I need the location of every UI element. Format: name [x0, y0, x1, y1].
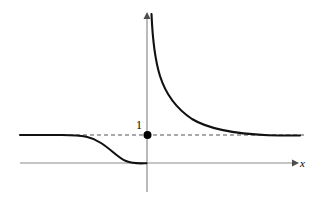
point-marker-0-1	[144, 131, 152, 139]
x-axis-label: x	[300, 158, 305, 169]
curve-left-branch	[20, 135, 146, 163]
function-graph-figure: 1 x	[0, 0, 321, 208]
curve-right-branch	[152, 14, 301, 136]
y-tick-label-1: 1	[136, 119, 142, 131]
plot-canvas	[0, 0, 321, 208]
